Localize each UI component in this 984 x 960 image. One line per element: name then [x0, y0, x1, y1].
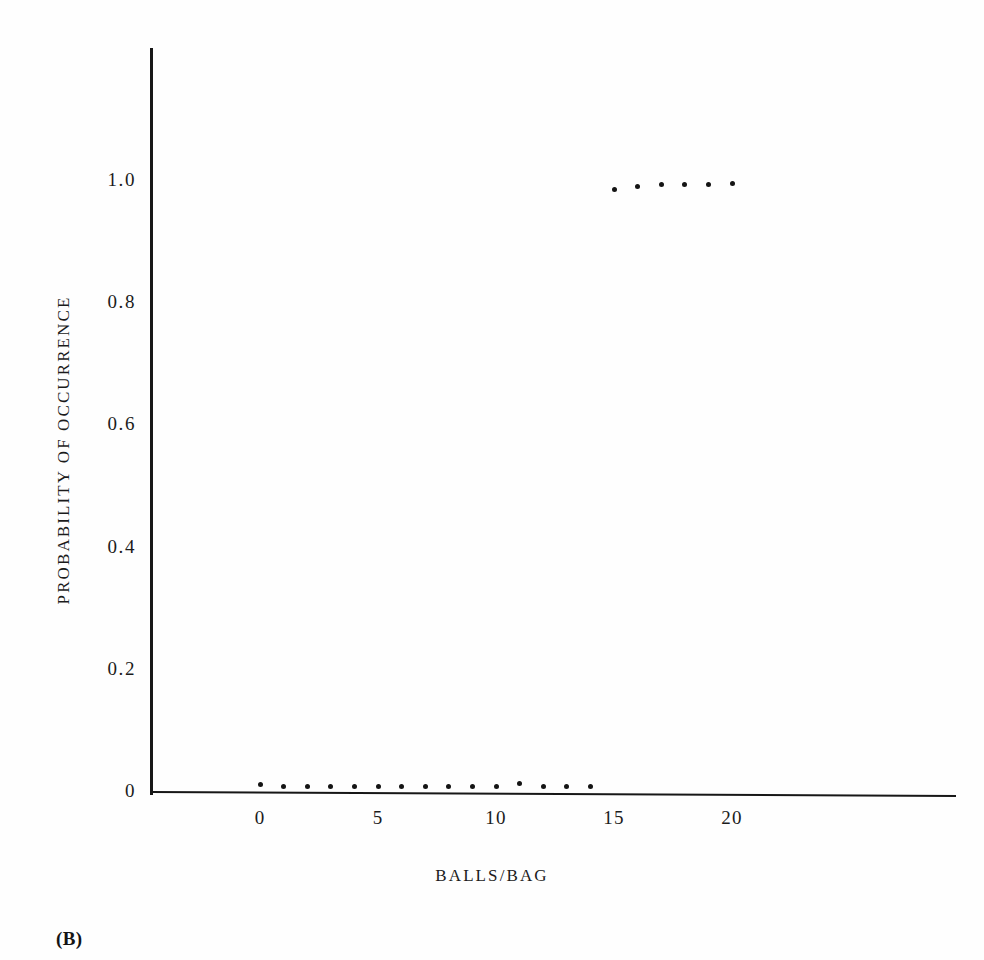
- data-point: [423, 784, 428, 789]
- x-tick-label: 20: [702, 808, 762, 827]
- data-point: [399, 784, 404, 789]
- data-point: [588, 784, 593, 789]
- data-point: [305, 784, 310, 789]
- data-point: [376, 784, 381, 789]
- data-point: [352, 784, 357, 789]
- x-tick-label: 0: [230, 808, 290, 827]
- data-point: [612, 187, 617, 192]
- x-tick-label: 15: [584, 808, 644, 827]
- data-point: [328, 784, 333, 789]
- figure-page: 00.20.40.60.81.0 05101520 PROBABILITY OF…: [0, 0, 984, 960]
- data-point: [470, 784, 475, 789]
- data-point: [564, 784, 569, 789]
- scatter-plot: 00.20.40.60.81.0 05101520 PROBABILITY OF…: [0, 0, 984, 960]
- data-point: [494, 784, 499, 789]
- data-point: [541, 784, 546, 789]
- x-axis-title: BALLS/BAG: [0, 866, 984, 886]
- panel-label: (B): [56, 928, 83, 950]
- data-point: [258, 782, 263, 787]
- y-axis-title: PROBABILITY OF OCCURRENCE: [54, 240, 74, 660]
- x-tick-label: 10: [466, 808, 526, 827]
- data-point: [281, 784, 286, 789]
- data-point: [730, 181, 735, 186]
- data-point: [635, 184, 640, 189]
- x-axis-tick-labels: 05101520: [0, 0, 984, 960]
- x-tick-label: 5: [348, 808, 408, 827]
- data-point: [446, 784, 451, 789]
